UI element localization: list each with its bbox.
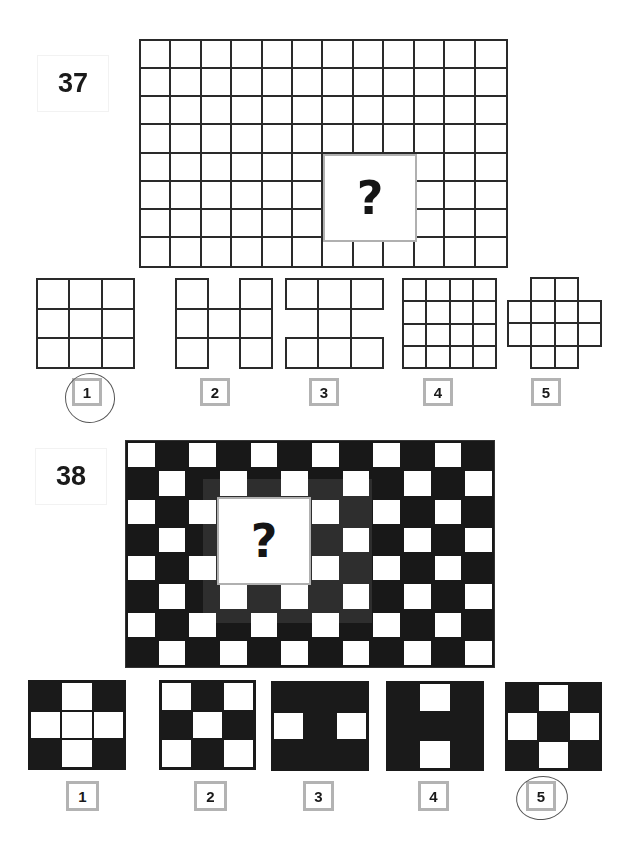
answer-circle-mark xyxy=(513,773,571,824)
black-square xyxy=(126,639,157,667)
white-square xyxy=(61,711,92,740)
shape-cell xyxy=(449,345,474,369)
white-square xyxy=(433,498,464,526)
grid-cell xyxy=(263,69,293,97)
puzzle-37-option-5-label[interactable]: 5 xyxy=(531,378,561,406)
white-square xyxy=(249,441,280,469)
puzzle-37-option-3-label[interactable]: 3 xyxy=(309,378,339,406)
shape-cell xyxy=(402,323,427,347)
white-square xyxy=(61,682,92,711)
black-square xyxy=(249,639,280,667)
grid-cell xyxy=(171,69,201,97)
grid-cell xyxy=(476,182,506,210)
white-square xyxy=(30,711,61,740)
shape-cell xyxy=(207,308,241,340)
grid-cell xyxy=(384,125,414,153)
grid-cell xyxy=(476,97,506,125)
puzzle-number-38: 38 xyxy=(35,448,107,505)
grid-cell xyxy=(415,41,445,69)
shape-cell xyxy=(285,278,319,310)
grid-cell xyxy=(202,210,232,238)
puzzle-38-option-1-shape[interactable] xyxy=(28,680,126,770)
white-square xyxy=(126,611,157,639)
grid-cell xyxy=(384,238,414,266)
missing-piece-box: ? xyxy=(323,154,417,242)
grid-cell xyxy=(293,238,323,266)
grid-cell xyxy=(141,210,171,238)
black-square xyxy=(433,469,464,497)
white-square xyxy=(187,441,218,469)
black-square xyxy=(402,441,433,469)
white-square xyxy=(507,712,538,740)
question-mark-icon: ? xyxy=(357,171,384,225)
black-square xyxy=(538,712,569,740)
black-square xyxy=(310,639,341,667)
puzzle-38-option-4-shape[interactable] xyxy=(386,681,484,771)
black-square xyxy=(451,740,482,769)
shape-cell xyxy=(68,337,102,369)
white-square xyxy=(463,469,494,497)
black-square xyxy=(371,582,402,610)
puzzle-37-option-3-shape[interactable] xyxy=(285,278,382,367)
black-square xyxy=(161,711,192,740)
grid-cell xyxy=(354,238,384,266)
shape-cell xyxy=(285,337,319,369)
puzzle-38-option-3-shape[interactable] xyxy=(271,681,369,771)
grid-cell xyxy=(323,238,353,266)
shape-cell xyxy=(554,345,579,370)
black-square xyxy=(192,739,223,768)
puzzle-37-option-4-label[interactable]: 4 xyxy=(423,378,453,406)
puzzle-38-option-5-shape[interactable] xyxy=(505,682,602,771)
grid-cell xyxy=(171,182,201,210)
white-square xyxy=(371,554,402,582)
white-square xyxy=(402,582,433,610)
puzzle-37-option-4-shape[interactable] xyxy=(402,278,495,367)
puzzle-38-option-2-shape[interactable] xyxy=(159,680,256,770)
shape-cell xyxy=(317,308,351,340)
black-square xyxy=(93,739,124,768)
puzzle-37-option-5-shape[interactable] xyxy=(507,277,600,367)
shape-cell xyxy=(402,300,427,324)
grid-cell xyxy=(141,69,171,97)
shape-cell xyxy=(530,300,555,325)
grid-cell xyxy=(445,238,475,266)
grid-cell xyxy=(293,210,323,238)
shape-cell xyxy=(472,345,497,369)
white-square xyxy=(538,684,569,712)
shape-cell xyxy=(402,345,427,369)
puzzle-38-option-1-label[interactable]: 1 xyxy=(66,781,99,811)
puzzle-37-option-2-label[interactable]: 2 xyxy=(200,378,230,406)
grid-cell xyxy=(232,69,262,97)
grid-cell xyxy=(202,97,232,125)
grid-cell xyxy=(354,69,384,97)
white-square xyxy=(402,526,433,554)
white-square xyxy=(157,526,188,554)
shape-cell xyxy=(554,322,579,347)
shape-cell xyxy=(239,278,273,310)
puzzle-37-option-1-shape[interactable] xyxy=(36,278,133,367)
black-square xyxy=(507,684,538,712)
black-square xyxy=(433,526,464,554)
grid-cell xyxy=(384,69,414,97)
grid-cell xyxy=(202,182,232,210)
grid-cell xyxy=(171,154,201,182)
black-square xyxy=(223,711,254,740)
black-square xyxy=(388,740,419,769)
grid-cell xyxy=(141,97,171,125)
black-square xyxy=(187,639,218,667)
black-square xyxy=(451,712,482,741)
grid-cell xyxy=(293,182,323,210)
answer-circle-mark xyxy=(61,369,119,427)
grid-cell xyxy=(323,97,353,125)
grid-cell xyxy=(476,238,506,266)
puzzle-38-option-3-label[interactable]: 3 xyxy=(303,781,334,811)
shape-cell xyxy=(507,300,532,325)
puzzle-38-option-4-label[interactable]: 4 xyxy=(418,781,449,811)
black-square xyxy=(463,498,494,526)
grid-cell xyxy=(293,154,323,182)
puzzle-38-option-2-label[interactable]: 2 xyxy=(194,781,227,811)
grid-cell xyxy=(141,41,171,69)
puzzle-37-option-2-shape[interactable] xyxy=(175,278,271,367)
white-square xyxy=(61,739,92,768)
grid-cell xyxy=(232,97,262,125)
